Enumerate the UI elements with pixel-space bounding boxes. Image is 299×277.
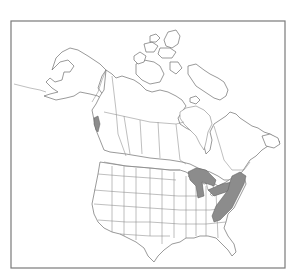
range-map bbox=[0, 0, 299, 277]
